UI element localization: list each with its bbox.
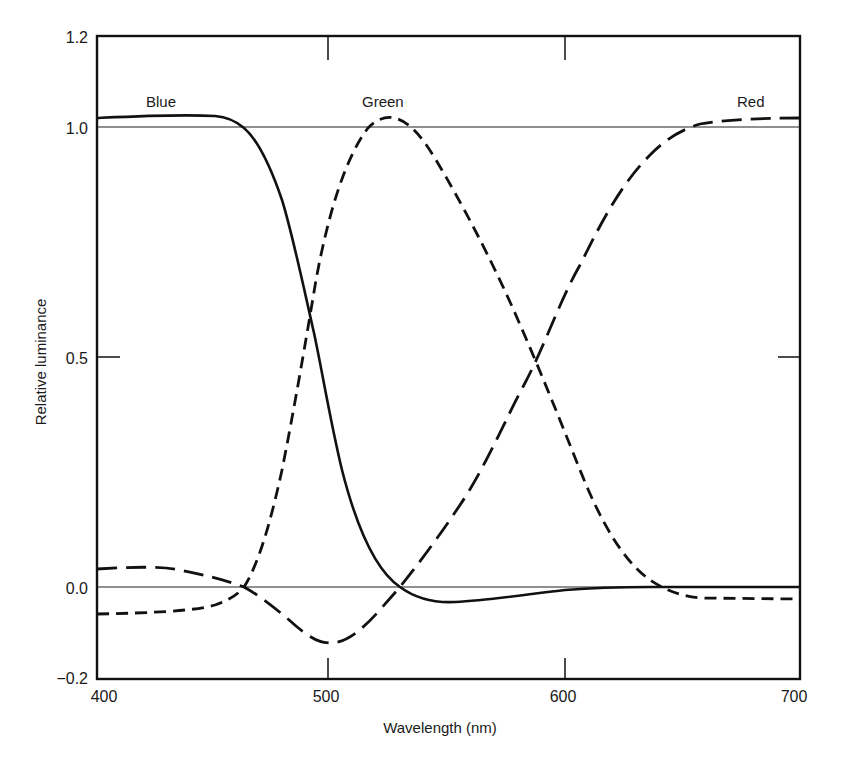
plot-frame xyxy=(97,36,800,679)
y-tick-0.5: 0.5 xyxy=(66,350,88,367)
y-tick-1.2: 1.2 xyxy=(66,29,88,46)
y-tick-1.0: 1.0 xyxy=(66,120,88,137)
x-axis-title: Wavelength (nm) xyxy=(383,719,497,736)
y-axis-title: Relative luminance xyxy=(32,299,49,426)
x-tick-500: 500 xyxy=(313,688,340,705)
series-red-line xyxy=(97,118,800,643)
x-tick-600: 600 xyxy=(550,688,577,705)
y-tick-minus-0.2: −0.2 xyxy=(56,670,88,687)
tick-marks xyxy=(97,36,800,679)
series-label-red: Red xyxy=(737,93,765,110)
x-tick-700: 700 xyxy=(781,688,808,705)
y-tick-0.0: 0.0 xyxy=(66,580,88,597)
series-label-green: Green xyxy=(362,93,404,110)
series-green-line xyxy=(97,117,800,614)
x-tick-labels: 400 500 600 700 xyxy=(91,688,808,705)
series-label-blue: Blue xyxy=(146,93,176,110)
luminance-chart: 1.2 1.0 0.5 0.0 −0.2 400 500 600 700 Wav… xyxy=(0,0,841,766)
series-blue-line xyxy=(97,115,800,602)
x-tick-400: 400 xyxy=(91,688,118,705)
y-tick-labels: 1.2 1.0 0.5 0.0 −0.2 xyxy=(56,29,88,687)
